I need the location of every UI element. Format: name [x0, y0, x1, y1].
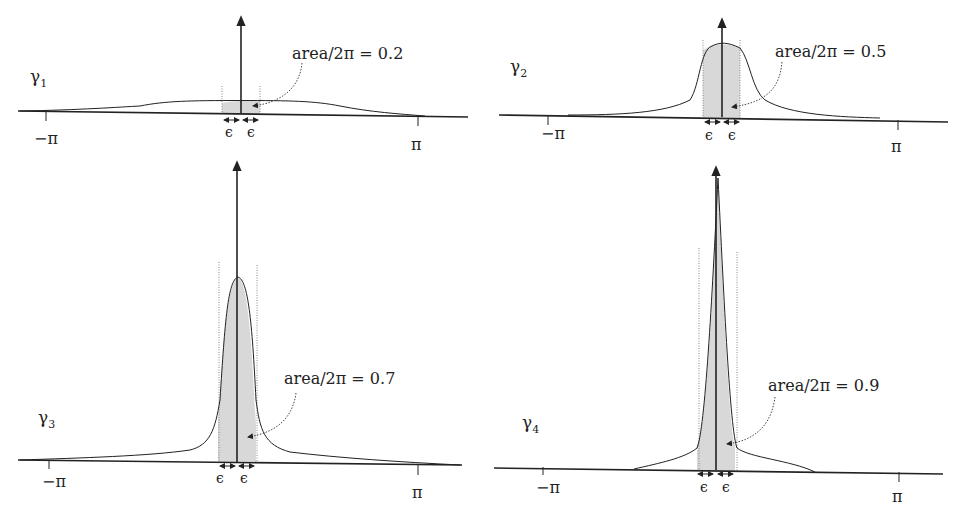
area-annotation: area/2π = 0.7: [284, 369, 395, 388]
epsilon-label: ϵ: [700, 479, 708, 495]
epsilon-label: ϵ: [225, 124, 233, 140]
tick-label-neg-pi: −π: [536, 478, 560, 497]
tick-label-pi: π: [412, 483, 423, 502]
tick-label-pi: π: [891, 137, 902, 156]
gamma-label: γ3: [38, 407, 55, 431]
panel-gamma1: γ1 area/2π = 0.2 −π π ϵ ϵ: [18, 20, 468, 154]
tick-label-pi: π: [411, 135, 422, 154]
gamma-label: γ2: [510, 56, 527, 80]
gamma-label: γ1: [30, 66, 47, 90]
epsilon-label: ϵ: [728, 127, 736, 143]
tick-label-neg-pi: −π: [541, 124, 565, 143]
tick-label-neg-pi: −π: [34, 129, 58, 148]
figure-canvas: γ1 area/2π = 0.2 −π π ϵ ϵ γ2 area/2π = 0…: [0, 0, 965, 518]
panel-gamma4: γ4 area/2π = 0.9 −π π ϵ ϵ: [494, 170, 943, 506]
area-annotation: area/2π = 0.2: [292, 44, 403, 63]
epsilon-label: ϵ: [722, 479, 730, 495]
panel-gamma2: γ2 area/2π = 0.5 −π π ϵ ϵ: [499, 22, 948, 156]
epsilon-label: ϵ: [705, 127, 713, 143]
epsilon-label: ϵ: [247, 124, 255, 140]
epsilon-label: ϵ: [240, 470, 248, 486]
area-annotation: area/2π = 0.5: [775, 42, 886, 61]
epsilon-label: ϵ: [216, 470, 224, 486]
tick-label-pi: π: [892, 487, 903, 506]
gamma-label: γ4: [522, 412, 539, 436]
tick-label-neg-pi: −π: [42, 472, 66, 491]
panel-gamma3: γ3 area/2π = 0.7 −π π ϵ ϵ: [18, 165, 462, 502]
area-annotation: area/2π = 0.9: [768, 376, 879, 395]
